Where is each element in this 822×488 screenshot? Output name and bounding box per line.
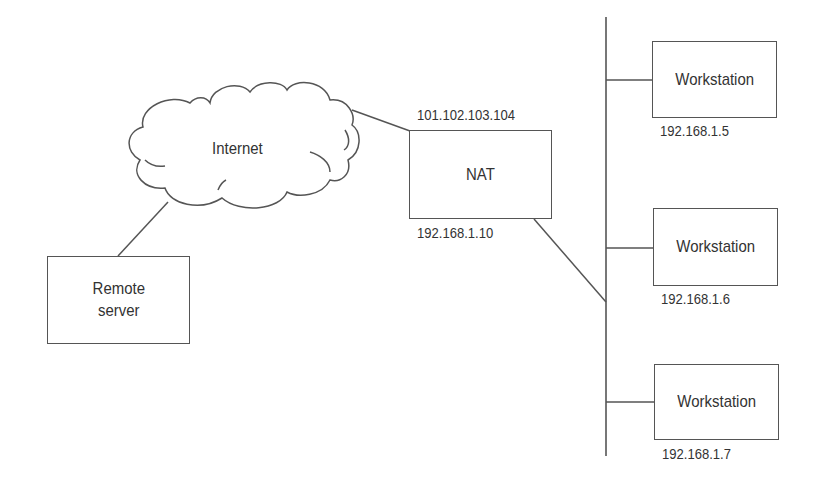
workstation-node-1[interactable]: Workstation <box>652 41 777 118</box>
nat-node[interactable]: NAT <box>409 130 552 219</box>
remote-server-label: Remote server <box>92 278 144 322</box>
workstation-node-3[interactable]: Workstation <box>654 364 779 440</box>
remote-server-label-line2: server <box>92 300 144 322</box>
workstation-ip-2: 192.168.1.6 <box>661 291 730 307</box>
remote-server-label-line1: Remote <box>92 278 144 300</box>
workstation-node-2[interactable]: Workstation <box>653 208 778 286</box>
workstation-ip-1: 192.168.1.5 <box>660 123 729 139</box>
link-internet-nat <box>352 110 410 131</box>
workstation-label-1: Workstation <box>675 69 754 91</box>
link-server-internet <box>118 202 168 256</box>
link-nat-bus <box>534 219 606 302</box>
workstation-label-3: Workstation <box>677 391 756 413</box>
internet-label: Internet <box>212 139 263 159</box>
nat-public-ip: 101.102.103.104 <box>417 107 515 123</box>
nat-label: NAT <box>466 164 495 186</box>
nat-private-ip: 192.168.1.10 <box>417 225 493 241</box>
workstation-label-2: Workstation <box>676 236 755 258</box>
workstation-ip-3: 192.168.1.7 <box>662 446 731 462</box>
remote-server-node[interactable]: Remote server <box>47 256 190 344</box>
